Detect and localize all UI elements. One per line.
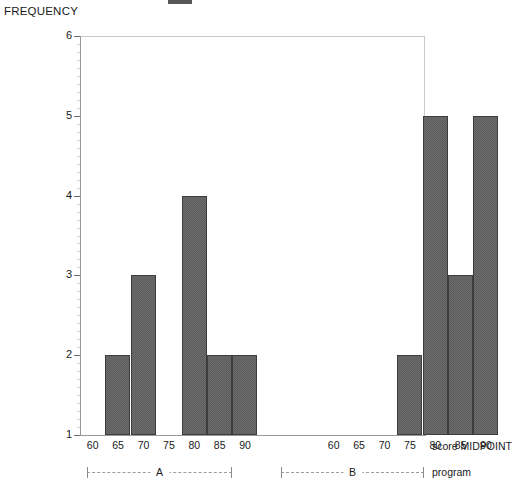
bracket-label: B xyxy=(343,466,362,479)
x-tick-label: 65 xyxy=(106,440,130,451)
y-minor-tick xyxy=(77,236,80,237)
histogram-chart: FREQUENCY 123456 60657075808590606570758… xyxy=(0,0,530,501)
x-tick-label: 80 xyxy=(182,440,206,451)
y-minor-tick xyxy=(77,100,80,101)
y-minor-tick xyxy=(77,44,80,45)
y-tick-label: 2 xyxy=(46,349,72,360)
y-minor-tick xyxy=(77,411,80,412)
x-tick-label: 60 xyxy=(322,440,346,451)
y-tick-label: 6 xyxy=(46,30,72,41)
y-minor-tick xyxy=(77,124,80,125)
bracket-cap-left xyxy=(87,467,88,478)
y-minor-tick xyxy=(77,331,80,332)
bar xyxy=(131,275,156,435)
bar xyxy=(448,275,473,435)
x-tick-label: 90 xyxy=(233,440,257,451)
x-axis-line xyxy=(80,435,426,436)
y-tick xyxy=(74,435,80,436)
y-minor-tick xyxy=(77,419,80,420)
bar xyxy=(232,355,257,435)
y-minor-tick xyxy=(77,60,80,61)
y-axis-line xyxy=(80,36,81,435)
bar xyxy=(473,116,498,435)
y-minor-tick xyxy=(77,220,80,221)
y-minor-tick xyxy=(77,347,80,348)
bar xyxy=(105,355,130,435)
y-minor-tick xyxy=(77,148,80,149)
bar xyxy=(182,196,207,435)
x-axis-caption-midpoint: score MIDPOINT xyxy=(432,440,512,452)
bracket-cap-right xyxy=(423,467,424,478)
y-minor-tick xyxy=(77,371,80,372)
y-minor-tick xyxy=(77,291,80,292)
y-tick-label: 5 xyxy=(46,110,72,121)
y-tick xyxy=(74,275,80,276)
y-minor-tick xyxy=(77,283,80,284)
y-minor-tick xyxy=(77,68,80,69)
x-axis-caption-program: program xyxy=(432,466,471,478)
x-tick-label: 75 xyxy=(398,440,422,451)
y-minor-tick xyxy=(77,84,80,85)
y-minor-tick xyxy=(77,172,80,173)
y-minor-tick xyxy=(77,395,80,396)
y-minor-tick xyxy=(77,204,80,205)
y-minor-tick xyxy=(77,251,80,252)
y-minor-tick xyxy=(77,379,80,380)
y-minor-tick xyxy=(77,228,80,229)
y-tick xyxy=(74,116,80,117)
x-tick-label: 85 xyxy=(208,440,232,451)
y-minor-tick xyxy=(77,339,80,340)
y-tick xyxy=(74,355,80,356)
bracket-label: A xyxy=(150,466,169,479)
y-minor-tick xyxy=(77,267,80,268)
y-minor-tick xyxy=(77,427,80,428)
y-minor-tick xyxy=(77,132,80,133)
panel-bracket-a: A xyxy=(87,466,232,480)
x-tick-label: 65 xyxy=(347,440,371,451)
y-tick-label: 4 xyxy=(46,190,72,201)
bar xyxy=(207,355,232,435)
y-tick-label: 1 xyxy=(46,429,72,440)
y-minor-tick xyxy=(77,156,80,157)
y-minor-tick xyxy=(77,243,80,244)
y-minor-tick xyxy=(77,403,80,404)
y-minor-tick xyxy=(77,140,80,141)
y-minor-tick xyxy=(77,188,80,189)
y-minor-tick xyxy=(77,363,80,364)
y-minor-tick xyxy=(77,108,80,109)
bar xyxy=(423,116,448,435)
y-minor-tick xyxy=(77,299,80,300)
y-minor-tick xyxy=(77,52,80,53)
y-minor-tick xyxy=(77,307,80,308)
bracket-cap-left xyxy=(281,467,282,478)
y-tick xyxy=(74,196,80,197)
y-minor-tick xyxy=(77,323,80,324)
x-tick-label: 70 xyxy=(373,440,397,451)
y-axis-title: FREQUENCY xyxy=(4,5,78,17)
x-tick-label: 75 xyxy=(157,440,181,451)
y-minor-tick xyxy=(77,212,80,213)
x-tick-label: 60 xyxy=(81,440,105,451)
y-minor-tick xyxy=(77,259,80,260)
cropped-title-artifact xyxy=(168,0,192,4)
y-minor-tick xyxy=(77,92,80,93)
y-minor-tick xyxy=(77,315,80,316)
y-minor-tick xyxy=(77,180,80,181)
panel-bracket-b: B xyxy=(281,466,424,480)
y-tick-label: 3 xyxy=(46,269,72,280)
bracket-cap-right xyxy=(231,467,232,478)
y-minor-tick xyxy=(77,76,80,77)
y-tick xyxy=(74,36,80,37)
bar xyxy=(397,355,422,435)
y-minor-tick xyxy=(77,387,80,388)
x-tick-label: 70 xyxy=(132,440,156,451)
y-minor-tick xyxy=(77,164,80,165)
